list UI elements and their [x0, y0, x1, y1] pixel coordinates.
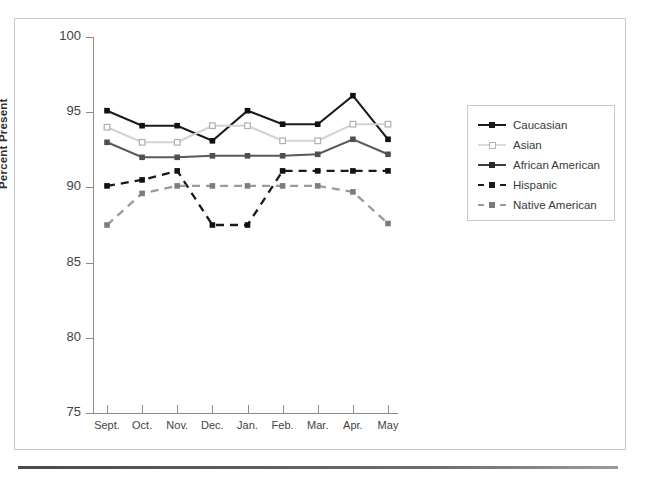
x-tick — [318, 405, 319, 413]
data-point — [385, 152, 391, 158]
series-hispanic — [104, 168, 391, 228]
y-tick — [86, 187, 93, 188]
legend-box: Caucasian Asian African American — [467, 105, 615, 221]
y-tick-label: 85 — [45, 255, 81, 268]
series-african-american — [104, 137, 391, 161]
series-plot — [15, 19, 625, 449]
data-point — [280, 183, 286, 189]
data-point — [174, 168, 180, 174]
legend-swatch-native-american — [478, 199, 506, 211]
data-point — [104, 183, 110, 189]
data-point — [210, 153, 216, 159]
figure-frame: Percent Present 1009590858075 Sept.Oct.N… — [14, 18, 626, 450]
data-point — [350, 137, 356, 143]
data-point — [315, 152, 321, 158]
y-tick-label: 100 — [45, 29, 81, 42]
data-point — [104, 124, 110, 130]
legend-swatch-hispanic — [478, 179, 506, 191]
data-point — [139, 177, 145, 183]
figure-page: Percent Present 1009590858075 Sept.Oct.N… — [0, 0, 650, 478]
data-point — [280, 121, 286, 127]
x-tick — [177, 405, 178, 413]
data-point — [315, 121, 321, 127]
legend-label-hispanic: Hispanic — [513, 179, 557, 191]
x-tick — [283, 405, 284, 413]
data-point — [174, 183, 180, 189]
y-tick-label: 75 — [45, 405, 81, 418]
legend-label-native-american: Native American — [513, 199, 597, 211]
y-tick-label: 95 — [45, 104, 81, 117]
data-point — [139, 140, 145, 146]
data-point — [245, 123, 251, 129]
y-tick — [86, 413, 93, 414]
data-point — [245, 153, 251, 159]
legend-label-asian: Asian — [513, 139, 542, 151]
x-tick-label: May — [365, 419, 411, 431]
legend-label-african-american: African American — [513, 159, 600, 171]
data-point — [139, 155, 145, 161]
x-tick — [212, 405, 213, 413]
legend-label-caucasian: Caucasian — [513, 119, 567, 131]
data-point — [385, 121, 391, 127]
y-tick-label: 90 — [45, 179, 81, 192]
data-point — [385, 137, 391, 143]
series-asian — [104, 121, 391, 145]
data-point — [210, 138, 216, 144]
data-point — [385, 168, 391, 174]
x-tick — [248, 405, 249, 413]
data-point — [385, 221, 391, 227]
x-tick — [353, 405, 354, 413]
data-point — [174, 123, 180, 129]
y-tick — [86, 263, 93, 264]
y-tick — [86, 112, 93, 113]
data-point — [210, 123, 216, 129]
data-point — [174, 155, 180, 161]
data-point — [350, 93, 356, 99]
data-point — [350, 168, 356, 174]
data-point — [104, 222, 110, 228]
bottom-divider-rule — [18, 466, 618, 469]
data-point — [350, 189, 356, 195]
legend-item-asian[interactable]: Asian — [478, 135, 606, 155]
data-point — [315, 168, 321, 174]
x-tick — [388, 405, 389, 413]
x-axis-line — [93, 413, 398, 414]
y-tick-label: 80 — [45, 330, 81, 343]
data-point — [245, 183, 251, 189]
data-point — [315, 138, 321, 144]
data-point — [280, 138, 286, 144]
x-tick — [107, 405, 108, 413]
legend-swatch-asian — [478, 139, 506, 151]
x-tick — [142, 405, 143, 413]
legend-item-native-american[interactable]: Native American — [478, 195, 606, 215]
data-point — [174, 140, 180, 146]
y-tick — [86, 338, 93, 339]
data-point — [210, 222, 216, 228]
data-point — [280, 153, 286, 159]
y-tick — [86, 37, 93, 38]
data-point — [210, 183, 216, 189]
data-point — [280, 168, 286, 174]
legend-swatch-african-american — [478, 159, 506, 171]
legend-item-hispanic[interactable]: Hispanic — [478, 175, 606, 195]
series-native-american — [104, 183, 391, 228]
legend-swatch-caucasian — [478, 119, 506, 131]
data-point — [104, 108, 110, 114]
y-axis-line — [93, 37, 94, 414]
data-point — [350, 121, 356, 127]
series-caucasian — [104, 93, 391, 144]
data-point — [139, 123, 145, 129]
legend-item-caucasian[interactable]: Caucasian — [478, 115, 606, 135]
data-point — [139, 191, 145, 197]
data-point — [245, 222, 251, 228]
legend-item-african-american[interactable]: African American — [478, 155, 606, 175]
data-point — [245, 108, 251, 114]
y-axis-title: Percent Present — [0, 98, 9, 189]
data-point — [104, 140, 110, 146]
data-point — [315, 183, 321, 189]
